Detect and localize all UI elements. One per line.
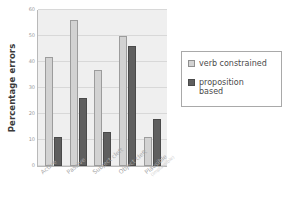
bar-chart-figure: Percentage errors 60 50 40 30 20 10 0: [0, 0, 287, 214]
y-tick-label-60: 60: [29, 6, 35, 12]
legend: verb constrained proposition based: [181, 51, 282, 107]
y-tick-label-10: 10: [29, 136, 35, 142]
x-axis-labels: Active Passive Subject cleft Object clef…: [37, 168, 167, 212]
bar-verb-constrained-active[interactable]: [45, 57, 53, 166]
plot-area: 60 50 40 30 20 10 0: [37, 10, 167, 167]
y-tick-label-0: 0: [32, 162, 35, 168]
legend-item-verb-constrained[interactable]: verb constrained: [188, 59, 275, 69]
y-axis-title-text: Percentage errors: [7, 44, 17, 133]
bar-group-subject-cleft: [91, 10, 116, 166]
light-swatch-icon: [188, 60, 195, 67]
legend-label-verb-constrained: verb constrained: [199, 59, 267, 69]
bar-group-object-cleft: [115, 10, 140, 166]
y-tick-label-40: 40: [29, 58, 35, 64]
dark-swatch-icon: [188, 79, 195, 86]
bar-group-passive: [66, 10, 91, 166]
y-tick-label-50: 50: [29, 32, 35, 38]
bar-proposition-based-object-cleft[interactable]: [128, 46, 136, 166]
bar-groups: [38, 10, 167, 166]
y-tick-label-20: 20: [29, 110, 35, 116]
y-tick-label-30: 30: [29, 84, 35, 90]
legend-label-proposition-based: proposition based: [199, 78, 244, 97]
y-axis-title: Percentage errors: [4, 28, 20, 148]
bar-group-plausible: [140, 10, 165, 166]
bar-verb-constrained-passive[interactable]: [70, 20, 78, 166]
legend-item-proposition-based[interactable]: proposition based: [188, 78, 275, 97]
bar-group-active: [41, 10, 66, 166]
bar-verb-constrained-subject-cleft[interactable]: [94, 70, 102, 166]
